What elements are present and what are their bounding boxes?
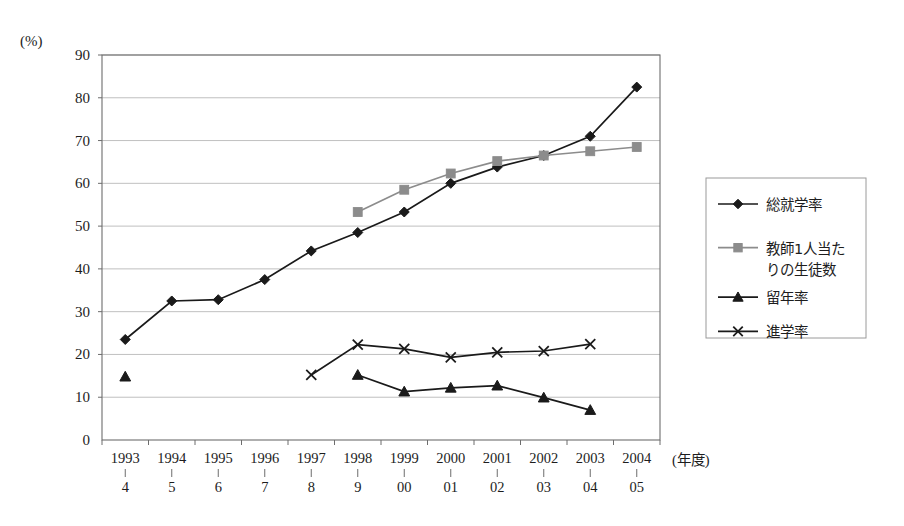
x-tick-label-year-end: 00	[397, 479, 412, 495]
marker-diamond	[399, 207, 409, 217]
chart-figure: (%) 0102030405060708090 1993419945199561…	[0, 0, 904, 526]
x-tick-label-year-end: 6	[215, 479, 222, 495]
legend-label: 留年率	[766, 290, 808, 306]
x-tick-label-year-end: 02	[490, 479, 505, 495]
marker-diamond	[446, 178, 456, 188]
y-tick-label: 20	[75, 346, 90, 362]
x-tick-label-year-end: 7	[261, 479, 268, 495]
x-tick-label-year: 1997	[297, 450, 326, 466]
y-tick-label: 50	[75, 218, 90, 234]
x-tick-label-year: 1995	[204, 450, 233, 466]
y-tick-label: 10	[75, 389, 90, 405]
x-tick-label-year: 1994	[157, 450, 187, 466]
marker-square	[493, 157, 502, 166]
series-3	[120, 370, 596, 415]
y-axis-unit-label: (%)	[20, 33, 43, 50]
x-tick-label-year-end: 9	[354, 479, 361, 495]
marker-diamond	[353, 228, 363, 238]
line-chart: (%) 0102030405060708090 1993419945199561…	[0, 0, 904, 526]
x-axis-tick-labels: 1993419945199561996719978199891999002000…	[102, 440, 660, 495]
series-line	[358, 375, 591, 410]
legend-label: 進学率	[766, 324, 808, 340]
legend-label: 総就学率	[766, 197, 822, 213]
x-tick-label-year: 1996	[250, 450, 279, 466]
legend-label: 教師1人当た	[766, 241, 845, 257]
x-tick-label-year-end: 05	[630, 479, 645, 495]
x-tick-label-year-end: 03	[537, 479, 552, 495]
x-tick-label-year: 1993	[111, 450, 140, 466]
legend-item-1[interactable]: 総就学率	[718, 197, 822, 213]
y-tick-label: 0	[83, 432, 91, 448]
marker-square	[586, 147, 595, 156]
marker-square	[400, 185, 409, 194]
y-tick-label: 70	[75, 133, 90, 149]
marker-cross	[306, 370, 316, 380]
legend-item-2[interactable]: 教師1人当たりの生徒数	[718, 241, 845, 278]
series-2	[353, 143, 641, 217]
x-axis-title: (年度)	[672, 452, 710, 469]
series-4	[306, 339, 595, 380]
x-tick-label-year-end: 5	[168, 479, 175, 495]
marker-square	[353, 208, 362, 217]
y-axis-tick-labels: 0102030405060708090	[75, 47, 102, 448]
legend-entries: 総就学率教師1人当たりの生徒数留年率進学率	[718, 197, 845, 340]
marker-diamond	[306, 246, 316, 256]
x-tick-label-year: 1999	[390, 450, 419, 466]
marker-square	[539, 151, 548, 160]
marker-square	[632, 143, 641, 152]
x-tick-label-year: 2002	[529, 450, 558, 466]
y-tick-label: 60	[75, 175, 90, 191]
y-axis-unit-text: (%)	[20, 33, 43, 50]
marker-square	[734, 244, 742, 252]
y-tick-label: 80	[75, 90, 90, 106]
marker-diamond	[733, 199, 743, 209]
marker-diamond	[260, 275, 270, 285]
y-tick-label: 40	[75, 261, 90, 277]
marker-square	[446, 169, 455, 178]
legend-item-3[interactable]: 留年率	[718, 290, 808, 306]
x-tick-label-year: 2001	[483, 450, 512, 466]
marker-triangle	[352, 370, 363, 380]
x-tick-label-year: 2000	[436, 450, 465, 466]
x-tick-label-year-end: 04	[583, 479, 598, 495]
x-tick-label-year: 2003	[576, 450, 605, 466]
plot-area-frame	[102, 55, 660, 440]
x-tick-label-year: 2004	[622, 450, 652, 466]
y-tick-label: 30	[75, 304, 90, 320]
x-tick-label-year-end: 01	[444, 479, 459, 495]
x-tick-label-year: 1998	[343, 450, 372, 466]
x-tick-label-year-end: 4	[122, 479, 130, 495]
series-line	[125, 87, 637, 339]
y-tick-label: 90	[75, 47, 90, 63]
legend-label: りの生徒数	[766, 262, 837, 278]
marker-triangle	[120, 371, 131, 381]
series-1	[120, 82, 642, 344]
data-series-group	[120, 82, 642, 414]
marker-diamond	[213, 295, 223, 305]
x-tick-label-year-end: 8	[308, 479, 315, 495]
